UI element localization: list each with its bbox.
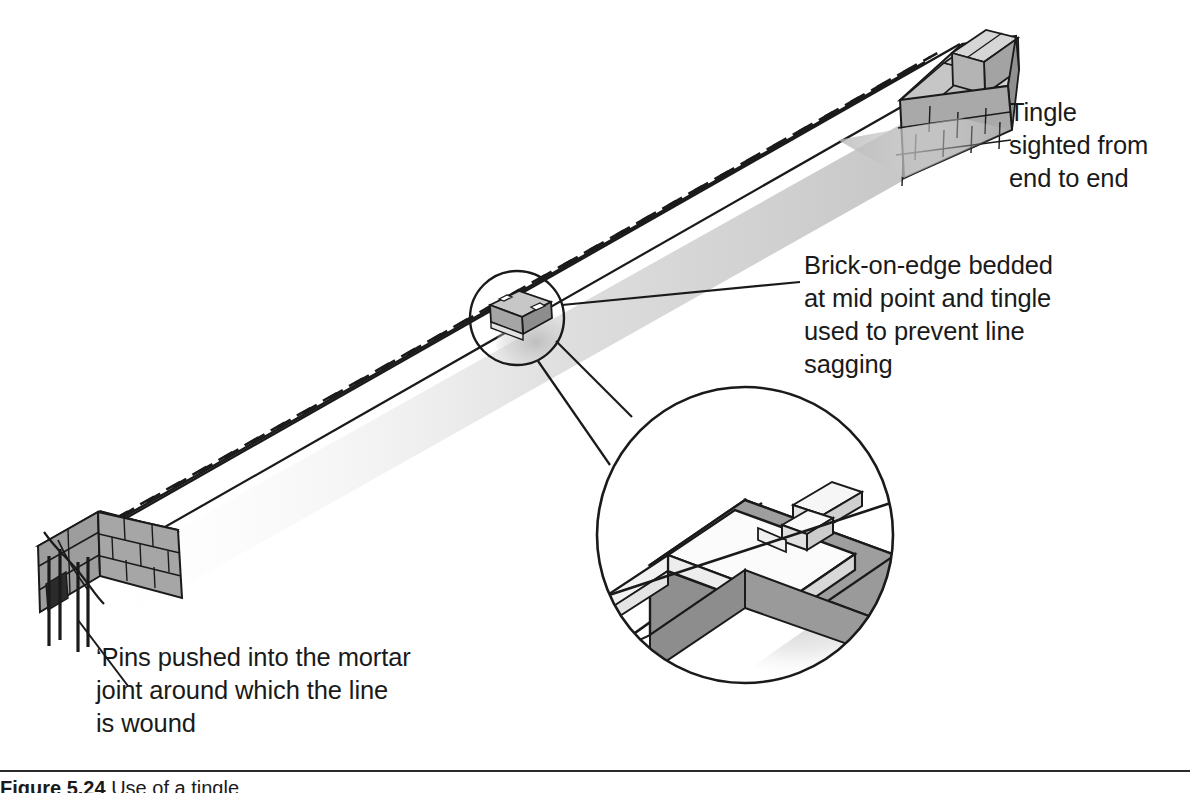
figure-caption-number: Figure 5.24 [0,777,106,793]
left-end-front-perp-2 [152,525,153,546]
caption-divider [0,770,1190,772]
figure-caption-text: Use of a tingle [111,777,239,793]
left-end-front-perp-6 [126,560,127,581]
left-end-front-perp-3 [112,537,113,559]
magnified-detail-circle [556,385,930,700]
figure-caption: Figure 5.24 Use of a tingle [0,775,660,793]
left-end-front-perp-7 [154,567,155,588]
big-mortar-band [596,635,650,700]
annotation-tingle-sighted: Tingle sighted from end to end [1009,96,1190,195]
annotation-brick-on-edge: Brick-on-edge bedded at mid point and ti… [804,249,1104,381]
annotation-pins: ‘Pins pushed into the mortar joint aroun… [96,641,516,740]
left-end-front-perp-1 [124,518,125,540]
left-end-front-perp-4 [140,544,141,566]
left-end-front-perp-5 [168,551,169,572]
magnifier-ray-lower [538,361,610,465]
